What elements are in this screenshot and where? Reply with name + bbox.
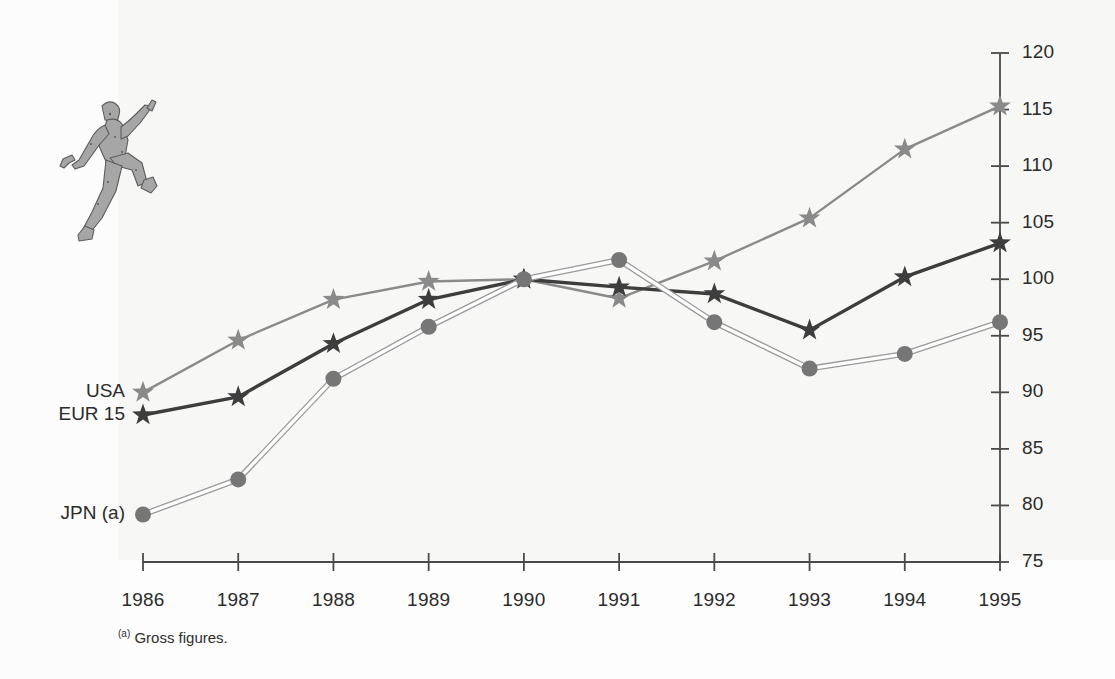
y-axis-tick-label: 85 — [1022, 437, 1044, 459]
data-point-star-marker — [132, 403, 154, 424]
data-point-circle-marker — [135, 506, 151, 522]
y-axis-tick-label: 75 — [1022, 550, 1044, 572]
data-point-circle-marker — [325, 371, 341, 387]
data-point-circle-marker — [706, 314, 722, 330]
data-point-star-marker — [703, 250, 725, 271]
data-point-circle-marker — [992, 314, 1008, 330]
y-axis-tick-label: 115 — [1022, 98, 1053, 120]
series-label-usa: USA — [13, 380, 125, 402]
data-point-star-marker — [418, 288, 440, 309]
data-point-star-marker — [323, 288, 345, 309]
y-axis-tick-label: 120 — [1022, 41, 1054, 63]
y-axis-tick-label: 80 — [1022, 493, 1044, 515]
data-point-star-marker — [799, 319, 821, 340]
footnote: (a) Gross figures. — [118, 628, 228, 646]
x-axis-tick-label: 1995 — [960, 589, 1040, 611]
data-point-circle-marker — [897, 346, 913, 362]
series-label-jpn-a: JPN (a) — [13, 502, 125, 524]
data-point-star-marker — [132, 381, 154, 402]
chart-page: 7580859095100105110115120198619871988198… — [0, 0, 1115, 679]
x-axis-tick-label: 1993 — [770, 589, 850, 611]
y-axis-tick-label: 105 — [1022, 211, 1054, 233]
footnote-text: Gross figures. — [130, 629, 228, 646]
y-axis-tick-label: 100 — [1022, 267, 1054, 289]
x-axis-tick-label: 1986 — [103, 589, 183, 611]
series-line — [143, 106, 1000, 392]
series-label-eur-15: EUR 15 — [13, 403, 125, 425]
y-axis-tick-label: 95 — [1022, 324, 1044, 346]
data-point-circle-marker — [516, 271, 532, 287]
x-axis-tick-label: 1991 — [579, 589, 659, 611]
data-point-star-marker — [418, 270, 440, 291]
data-point-circle-marker — [802, 361, 818, 377]
data-point-star-marker — [227, 329, 249, 350]
series-lines — [132, 95, 1011, 523]
x-axis-tick-label: 1990 — [484, 589, 564, 611]
x-axis-tick-label: 1994 — [865, 589, 945, 611]
data-point-star-marker — [703, 282, 725, 303]
chart-canvas — [0, 0, 1115, 679]
series-line-inner — [143, 260, 1000, 515]
x-axis-tick-label: 1988 — [293, 589, 373, 611]
x-axis-tick-label: 1989 — [389, 589, 469, 611]
data-point-circle-marker — [611, 252, 627, 268]
x-axis-tick-label: 1987 — [198, 589, 278, 611]
axes — [143, 53, 1009, 571]
data-point-star-marker — [799, 207, 821, 228]
data-point-star-marker — [227, 385, 249, 406]
y-axis-tick-label: 110 — [1022, 154, 1053, 176]
series-line-outer — [143, 260, 1000, 515]
footnote-marker: (a) — [118, 628, 130, 639]
x-axis-tick-label: 1992 — [674, 589, 754, 611]
data-point-circle-marker — [421, 319, 437, 335]
y-axis-tick-label: 90 — [1022, 380, 1044, 402]
data-point-circle-marker — [230, 471, 246, 487]
